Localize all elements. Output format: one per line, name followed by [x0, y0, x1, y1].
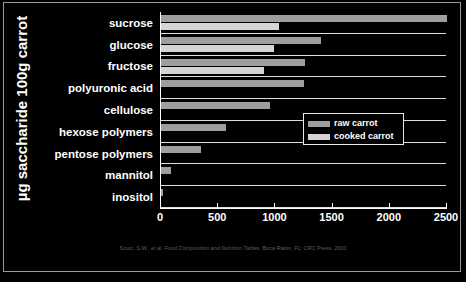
- legend-swatch: [308, 134, 330, 140]
- bar-raw-carrot-sucrose: [161, 15, 447, 22]
- row-separator: [160, 33, 446, 34]
- x-tick-label: 2000: [377, 211, 401, 223]
- plot-area: [160, 12, 446, 208]
- category-label: glucose: [110, 39, 153, 51]
- x-tick-label: 500: [208, 211, 226, 223]
- bar-raw-carrot-inositol: [161, 189, 163, 196]
- bar-raw-carrot-pentose-polymers: [161, 146, 201, 153]
- x-tick-label: 1500: [319, 211, 343, 223]
- bar-raw-carrot-cellulose: [161, 102, 270, 109]
- bar-cooked-carrot-glucose: [161, 45, 274, 52]
- x-tick: [217, 203, 218, 209]
- x-tick: [332, 203, 333, 209]
- legend-swatch: [308, 121, 330, 127]
- x-tick: [274, 203, 275, 209]
- category-label: sucrose: [109, 17, 153, 29]
- bar-raw-carrot-glucose: [161, 37, 321, 44]
- x-tick-label: 1000: [262, 211, 286, 223]
- chart-figure: µg saccharide 100g carrot sucroseglucose…: [0, 0, 466, 282]
- bar-cooked-carrot-fructose: [161, 67, 264, 74]
- category-label: fructose: [108, 60, 153, 72]
- x-tick: [446, 203, 447, 209]
- bar-raw-carrot-fructose: [161, 59, 305, 66]
- row-separator: [160, 76, 446, 77]
- caption-prefix: Souci, S.W., et al.: [120, 245, 165, 251]
- category-label: hexose polymers: [59, 126, 153, 138]
- category-label: cellulose: [104, 104, 153, 116]
- x-tick: [389, 203, 390, 209]
- legend-label: cooked carrot: [334, 131, 394, 142]
- x-axis-line: [160, 208, 447, 209]
- x-tick-label: 0: [157, 211, 163, 223]
- y-axis-title: µg saccharide 100g carrot: [13, 4, 30, 214]
- category-label: inositol: [112, 191, 153, 203]
- category-label: pentose polymers: [55, 148, 153, 160]
- row-separator: [160, 98, 446, 99]
- category-label: polyuronic acid: [68, 82, 153, 94]
- legend-label: raw carrot: [334, 118, 378, 129]
- caption-title: Food Composition and Nutrition Tables: [164, 245, 259, 251]
- x-tick: [160, 203, 161, 209]
- bar-raw-carrot-hexose-polymers: [161, 124, 226, 131]
- legend: raw carrotcooked carrot: [303, 113, 404, 145]
- bar-raw-carrot-mannitol: [161, 167, 171, 174]
- bar-raw-carrot-polyuronic-acid: [161, 80, 304, 87]
- x-tick-label: 2500: [434, 211, 458, 223]
- row-separator: [160, 163, 446, 164]
- category-label: mannitol: [105, 169, 153, 181]
- bar-cooked-carrot-sucrose: [161, 23, 279, 30]
- row-separator: [160, 185, 446, 186]
- row-separator: [160, 55, 446, 56]
- source-caption: Souci, S.W., et al. Food Composition and…: [0, 245, 466, 251]
- caption-suffix: . Boca Raton, FL: CRC Press, 2000: [259, 245, 346, 251]
- category-axis-labels: sucroseglucosefructosepolyuronic acidcel…: [28, 12, 156, 208]
